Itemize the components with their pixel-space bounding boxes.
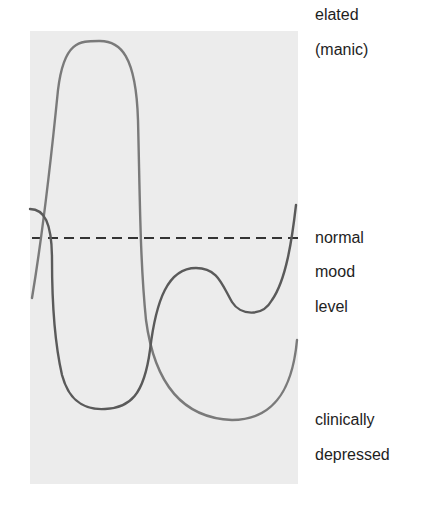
- label-clinically: clinically: [315, 411, 375, 429]
- mood-diagram: elated (manic) normal mood level clinica…: [0, 0, 438, 513]
- label-manic: (manic): [315, 41, 368, 59]
- mood-curve-manic-then-depressed: [32, 41, 297, 420]
- mood-plot: [0, 0, 438, 513]
- label-depressed: depressed: [315, 446, 390, 464]
- label-elated: elated: [315, 6, 359, 24]
- label-mood: mood: [315, 263, 355, 281]
- label-normal: normal: [315, 229, 364, 247]
- label-level: level: [315, 298, 348, 316]
